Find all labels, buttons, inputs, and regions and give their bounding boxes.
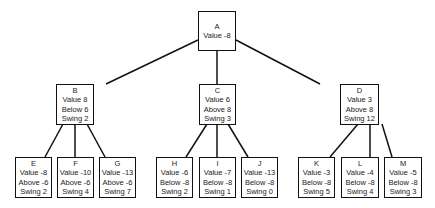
node-label: L (358, 159, 362, 169)
node-swing: Swing 2 (62, 114, 89, 124)
node-h: H Value -6 Below -8 Swing 2 (156, 157, 193, 198)
node-swing: Swing 4 (62, 187, 89, 197)
node-l: L Value -4 Below -8 Swing 4 (341, 157, 379, 198)
node-e: E Value -8 Above -6 Swing 2 (15, 157, 52, 198)
node-value: Value -13 (102, 168, 134, 178)
node-swing: Swing 2 (20, 187, 47, 197)
node-bound: Below -8 (302, 178, 331, 188)
node-value: Value -4 (346, 168, 373, 178)
edge-a-d (236, 40, 320, 84)
node-bound: Below -8 (160, 178, 189, 188)
node-swing: Swing 2 (161, 187, 188, 197)
node-label: F (73, 159, 78, 169)
node-swing: Swing 12 (344, 114, 375, 124)
node-bound: Above -6 (102, 178, 132, 188)
node-swing: Swing 0 (246, 187, 273, 197)
node-a: A Value -8 (198, 11, 236, 51)
node-value: Value -7 (204, 168, 231, 178)
node-value: Value 6 (205, 95, 230, 105)
edge-b-e (45, 124, 63, 157)
node-label: A (214, 22, 219, 32)
node-bound: Above -6 (60, 178, 90, 188)
node-label: J (258, 159, 262, 169)
node-value: Value -3 (303, 168, 330, 178)
node-value: Value -5 (389, 168, 416, 178)
node-value: Value -8 (20, 168, 47, 178)
node-label: I (216, 159, 218, 169)
node-value: Value -8 (203, 31, 230, 41)
node-label: H (172, 159, 177, 169)
node-value: Value 3 (347, 95, 372, 105)
node-bound: Below -8 (345, 178, 374, 188)
node-label: K (314, 159, 319, 169)
node-label: E (31, 159, 36, 169)
node-label: G (115, 159, 121, 169)
node-c: C Value 6 Above 8 Swing 3 (199, 84, 236, 125)
node-i: I Value -7 Below -8 Swing 1 (199, 157, 236, 198)
node-d: D Value 3 Above 8 Swing 12 (340, 84, 379, 125)
node-f: F Value -10 Above -6 Swing 4 (57, 157, 94, 198)
node-bound: Below -8 (388, 178, 417, 188)
node-b: B Value 8 Below 6 Swing 2 (56, 84, 94, 125)
node-swing: Swing 3 (204, 114, 231, 124)
node-m: M Value -5 Below -8 Swing 3 (384, 157, 422, 198)
node-bound: Above 8 (204, 105, 232, 115)
node-value: Value 8 (63, 95, 88, 105)
node-swing: Swing 1 (204, 187, 231, 197)
node-g: G Value -13 Above -6 Swing 7 (99, 157, 136, 198)
node-bound: Below -8 (245, 178, 274, 188)
edge-c-j (228, 124, 248, 157)
node-swing: Swing 4 (347, 187, 374, 197)
node-value: Value -6 (161, 168, 188, 178)
node-label: C (215, 86, 220, 96)
node-label: M (400, 159, 406, 169)
node-swing: Swing 3 (390, 187, 417, 197)
edge-d-k (330, 124, 358, 157)
edge-a-b (106, 40, 198, 84)
node-swing: Swing 5 (303, 187, 330, 197)
node-bound: Below -8 (203, 178, 232, 188)
node-swing: Swing 7 (104, 187, 131, 197)
node-bound: Above 8 (346, 105, 374, 115)
edge-c-h (186, 124, 207, 157)
node-k: K Value -3 Below -8 Swing 5 (298, 157, 335, 198)
node-value: Value -13 (244, 168, 276, 178)
edge-d-m (382, 124, 392, 157)
node-bound: Below 6 (62, 105, 89, 115)
node-bound: Above -6 (18, 178, 48, 188)
node-j: J Value -13 Below -8 Swing 0 (241, 157, 278, 198)
node-label: D (357, 86, 362, 96)
node-label: B (72, 86, 77, 96)
node-value: Value -10 (60, 168, 92, 178)
edge-b-g (87, 124, 105, 157)
